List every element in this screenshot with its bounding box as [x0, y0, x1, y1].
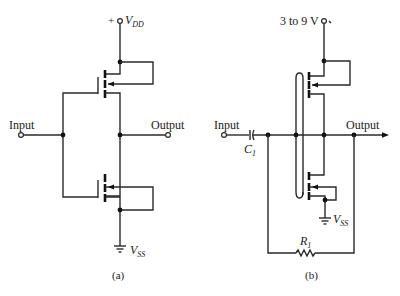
nmos-body-loop-b — [309, 187, 336, 200]
vdd-terminal — [118, 19, 123, 24]
output-label-a: Output — [151, 118, 185, 132]
supply-label-b: 3 to 9 V — [280, 14, 319, 28]
nmos-body-junction — [118, 208, 123, 213]
pmos-body-arrow-icon — [108, 82, 114, 87]
pmos-transistor — [98, 70, 105, 98]
output-label-b: Output — [346, 118, 380, 132]
input-terminal-b[interactable] — [222, 133, 227, 138]
input-junction-a — [61, 133, 66, 138]
output-junction-a — [118, 133, 123, 138]
nmos-source-wire — [105, 197, 120, 246]
pmos-source-wire — [105, 24, 120, 75]
output-arrow-icon — [382, 132, 389, 138]
caption-a: (a) — [112, 269, 125, 282]
circuit-figure: + VDD Input Output — [0, 0, 400, 296]
supply-terminal-b[interactable] — [322, 19, 327, 24]
drain-junction-b — [322, 133, 327, 138]
feedback-wire-left — [268, 135, 296, 253]
gate-junction-b — [294, 133, 299, 138]
ground-icon-b — [319, 218, 331, 224]
output-terminal-a[interactable] — [166, 133, 171, 138]
panel-a: + VDD Input Output — [9, 13, 185, 282]
nmos-transistor — [98, 174, 105, 202]
capacitor-label: C1 — [244, 142, 256, 158]
nmos-gate-b — [296, 135, 303, 198]
pmos-body-loop-b — [312, 61, 350, 85]
nmos-body-loop — [105, 187, 153, 210]
nmos-body-junction-b — [323, 198, 328, 203]
nmos-body-arrow-icon — [108, 185, 114, 190]
vss-label-b: VSS — [333, 212, 348, 228]
input-label-a: Input — [9, 118, 35, 132]
pmos-body-loop — [108, 62, 153, 84]
nmos-source-wire-b — [309, 196, 325, 218]
caption-b: (b) — [305, 269, 318, 282]
gate-tie-wire — [63, 93, 98, 197]
input-label-b: Input — [214, 118, 240, 132]
pmos-body-arrow-icon-b — [312, 83, 318, 88]
pmos-source-wire-b — [309, 23, 324, 76]
input-terminal-a[interactable] — [19, 133, 24, 138]
supply-tick-mark — [329, 21, 331, 23]
feedback-wire-right — [315, 135, 354, 253]
vdd-plus-sign: + — [108, 14, 114, 26]
drain-connection-wire — [105, 93, 120, 196]
nmos-body-arrow-icon-b — [312, 185, 318, 190]
panel-b: 3 to 9 V Input C1 Output — [214, 14, 389, 282]
resistor-icon — [296, 250, 315, 256]
vss-label-a: VSS — [130, 243, 145, 259]
ground-icon — [114, 246, 126, 252]
resistor-label: R1 — [299, 234, 311, 250]
vdd-label: VDD — [125, 13, 144, 29]
